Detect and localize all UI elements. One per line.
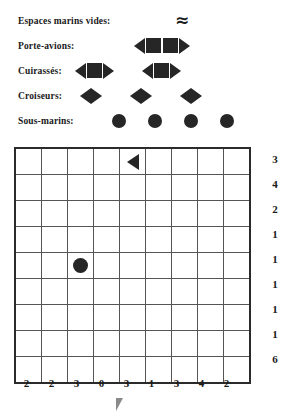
board-cell[interactable]: [120, 175, 146, 201]
board-cell[interactable]: [94, 227, 120, 253]
board-cell[interactable]: [146, 305, 172, 331]
board-cell[interactable]: [94, 253, 120, 279]
board-cell[interactable]: [146, 227, 172, 253]
board-cell[interactable]: [42, 253, 68, 279]
column-clue: 3: [64, 377, 89, 389]
board-cell[interactable]: [198, 331, 224, 357]
board-cell[interactable]: [172, 175, 198, 201]
board-cell[interactable]: [120, 227, 146, 253]
board-cell[interactable]: [120, 331, 146, 357]
board-cell[interactable]: [68, 175, 94, 201]
board-cell[interactable]: [94, 331, 120, 357]
board-cell[interactable]: [146, 201, 172, 227]
board-cell[interactable]: [120, 148, 146, 175]
board-cell[interactable]: [172, 305, 198, 331]
board-cell[interactable]: [94, 305, 120, 331]
board-cell[interactable]: [94, 175, 120, 201]
board-cell[interactable]: [15, 227, 42, 253]
cruiser-icon: [180, 83, 202, 108]
triangle-left-icon: [130, 88, 141, 104]
board-cell[interactable]: [146, 253, 172, 279]
board-cell[interactable]: [198, 253, 224, 279]
board-cell[interactable]: [42, 201, 68, 227]
board-cell[interactable]: [198, 227, 224, 253]
board-cell[interactable]: [198, 201, 224, 227]
board-cell[interactable]: [42, 148, 68, 175]
board-cell[interactable]: [15, 175, 42, 201]
board-cell[interactable]: [120, 305, 146, 331]
board-cell[interactable]: [68, 227, 94, 253]
board-cell[interactable]: [120, 253, 146, 279]
legend-row: Cuirassés:: [0, 58, 294, 83]
triangle-right-icon: [91, 88, 102, 104]
board-cell[interactable]: [172, 279, 198, 305]
board-cell[interactable]: [94, 279, 120, 305]
board-cell[interactable]: [224, 148, 251, 175]
ship-body-square-icon: [163, 38, 178, 53]
row-clue: 6: [262, 347, 288, 372]
board-cell[interactable]: [146, 148, 172, 175]
board-row: [15, 253, 250, 279]
board-cell[interactable]: [15, 305, 42, 331]
column-clue: 4: [189, 377, 214, 389]
board-cell[interactable]: [146, 279, 172, 305]
board-row: [15, 175, 250, 201]
legend-symbol-group: [80, 83, 202, 108]
board-cell[interactable]: [146, 331, 172, 357]
board-cell[interactable]: [224, 305, 251, 331]
board-cell[interactable]: [15, 279, 42, 305]
board-cell[interactable]: [172, 201, 198, 227]
column-clue: 2: [214, 377, 239, 389]
board-cell[interactable]: [68, 148, 94, 175]
row-clue: 1: [262, 247, 288, 272]
board-cell[interactable]: [68, 201, 94, 227]
submarine-icon: [184, 108, 198, 133]
battleship-board[interactable]: [14, 147, 251, 384]
board-cell[interactable]: [94, 148, 120, 175]
board-cell[interactable]: [120, 201, 146, 227]
board-cell[interactable]: [68, 331, 94, 357]
board-cell[interactable]: [146, 175, 172, 201]
triangle-left-icon: [80, 88, 91, 104]
board-table[interactable]: [14, 147, 251, 384]
column-clue: 3: [114, 377, 139, 389]
triangle-right-icon: [103, 63, 114, 79]
board-cell[interactable]: [172, 148, 198, 175]
ship-body-square-icon: [154, 63, 169, 78]
row-clue: 1: [262, 272, 288, 297]
board-row: [15, 227, 250, 253]
board-cell[interactable]: [15, 331, 42, 357]
board-cell[interactable]: [94, 201, 120, 227]
board-cell[interactable]: [224, 175, 251, 201]
board-cell[interactable]: [68, 253, 94, 279]
board-cell[interactable]: [198, 279, 224, 305]
board-cell[interactable]: [120, 279, 146, 305]
board-cell[interactable]: [42, 331, 68, 357]
board-cell[interactable]: [224, 331, 251, 357]
board-cell[interactable]: [224, 253, 251, 279]
board-cell[interactable]: [172, 331, 198, 357]
board-cell[interactable]: [15, 148, 42, 175]
legend-symbol-group: [75, 58, 181, 83]
board-cell[interactable]: [15, 201, 42, 227]
board-cell[interactable]: [172, 253, 198, 279]
board-cell[interactable]: [224, 279, 251, 305]
board-row: [15, 279, 250, 305]
board-cell[interactable]: [15, 253, 42, 279]
board-cell[interactable]: [224, 227, 251, 253]
board-cell[interactable]: [172, 227, 198, 253]
board-cell[interactable]: [198, 305, 224, 331]
board-cell[interactable]: [224, 201, 251, 227]
board-cell[interactable]: [42, 175, 68, 201]
board-cell[interactable]: [198, 148, 224, 175]
board-cell[interactable]: [68, 305, 94, 331]
board-cell[interactable]: [198, 175, 224, 201]
board-cell[interactable]: [42, 279, 68, 305]
board-cell[interactable]: [42, 227, 68, 253]
legend-symbol-group: ≈: [175, 8, 189, 33]
board-cell[interactable]: [68, 279, 94, 305]
row-clues: 342111116: [262, 147, 288, 372]
cruiser-icon: [130, 83, 152, 108]
board-row: [15, 331, 250, 357]
board-cell[interactable]: [42, 305, 68, 331]
